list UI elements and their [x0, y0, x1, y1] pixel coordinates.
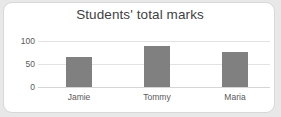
chart-card: Students' total marks 100 50 0 65 89 76 …	[3, 2, 275, 113]
bar[interactable]	[144, 46, 170, 87]
y-tick-label: 100	[9, 37, 35, 46]
x-tick-label: Tommy	[120, 92, 194, 102]
y-tick-label: 0	[9, 83, 35, 92]
y-axis: 100 50 0	[7, 41, 35, 88]
gridline	[38, 41, 270, 42]
y-tick-label: 50	[9, 60, 35, 69]
axis-baseline	[38, 87, 270, 88]
x-tick-label: Jamie	[42, 92, 116, 102]
x-tick-label: Maria	[198, 92, 272, 102]
chart-title: Students' total marks	[4, 7, 275, 22]
bar[interactable]	[66, 57, 92, 87]
plot-area: 65 89 76	[38, 41, 270, 88]
x-axis: Jamie Tommy Maria	[38, 92, 270, 106]
bar[interactable]	[222, 52, 248, 87]
